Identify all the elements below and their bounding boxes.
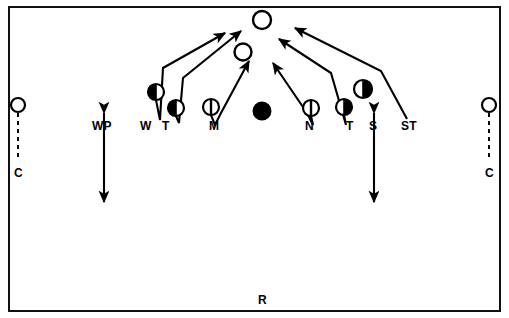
marker-tackle-left xyxy=(168,100,184,116)
label-tackle-left: T xyxy=(162,120,170,132)
marker-tackle-right xyxy=(336,99,352,115)
label-returner: R xyxy=(258,294,267,306)
route-lines xyxy=(156,28,407,125)
corner-drop-lines xyxy=(18,113,489,158)
marker-mike xyxy=(203,99,219,115)
marker-nose xyxy=(303,100,319,116)
marker-corner-right xyxy=(482,98,496,112)
play-graphics-layer xyxy=(0,0,509,318)
marker-blocker-deep xyxy=(253,11,271,29)
label-wp-left: WP xyxy=(92,120,112,132)
marker-corner-left xyxy=(11,98,25,112)
label-will: W xyxy=(140,120,152,132)
label-mike: M xyxy=(209,120,219,132)
label-sam: S xyxy=(369,120,377,132)
punt-return-diagram: C WP W T M N T S ST R C xyxy=(0,0,509,318)
route-mike xyxy=(211,61,249,125)
label-tackle-right: T xyxy=(346,120,354,132)
label-corner-right: C xyxy=(485,167,494,179)
marker-blocker-front xyxy=(235,44,252,61)
marker-sam xyxy=(354,80,372,98)
label-corner-left: C xyxy=(14,167,23,179)
label-nose: N xyxy=(305,120,314,132)
marker-center-ball xyxy=(254,103,271,120)
label-strong-tackle: ST xyxy=(401,120,417,132)
marker-will xyxy=(148,84,164,100)
player-markers xyxy=(11,11,496,120)
